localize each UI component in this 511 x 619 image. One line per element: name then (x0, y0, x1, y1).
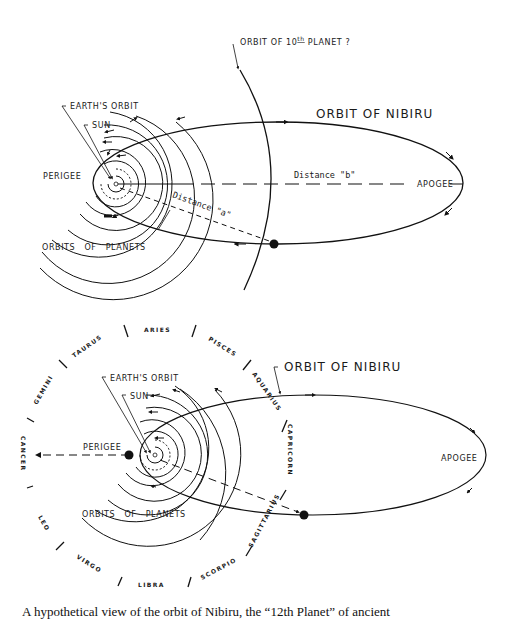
zodiac-libra: LIBRA (138, 581, 165, 588)
zodiac-gemini: GEMINI (32, 374, 55, 406)
zodiac-aquarius: AQUARIUS (251, 371, 283, 413)
bottom-orbits-of-planets-label: ORBITS OF PLANETS (82, 510, 186, 519)
zodiac-pisces: PISCES (207, 335, 238, 358)
top-diagram (40, 44, 463, 300)
top-orbits-of-planets-label: ORBITS OF PLANETS (42, 243, 146, 252)
orbit-diagrams: ORBIT OF 10th PLANET ? EARTH'S ORBIT SUN… (0, 0, 511, 619)
orbit-figure: ORBIT OF 10th PLANET ? EARTH'S ORBIT SUN… (0, 0, 511, 619)
bottom-nibiru-orbit (140, 395, 486, 515)
tenth-planet-orbit (240, 70, 271, 290)
top-planet-orbits (40, 112, 213, 300)
top-nibiru-dot (270, 240, 279, 249)
bottom-apogee-label: APOGEE (441, 454, 478, 463)
top-apogee-label: APOGEE (417, 180, 454, 189)
top-earths-orbit-label: EARTH'S ORBIT (70, 102, 139, 111)
bottom-nibiru-dot (300, 511, 309, 520)
bottom-nibiru-orbit-label: ORBIT OF NIBIRU (284, 360, 401, 374)
zodiac-aries: ARIES (144, 326, 171, 333)
distance-b-label: Distance "b" (294, 170, 355, 180)
perigee-dot (125, 451, 134, 460)
zodiac-leo: LEO (37, 514, 52, 532)
zodiac-capricorn: CAPRICORN (287, 424, 294, 476)
zodiac-scorpio: SCORPIO (199, 556, 238, 581)
bottom-diagram (27, 325, 486, 587)
top-perigee-label: PERIGEE (43, 172, 81, 181)
bottom-sun-icon (153, 453, 157, 457)
zodiac-virgo: VIRGO (75, 553, 103, 574)
top-nibiru-orbit (93, 122, 463, 244)
zodiac-taurus: TAURUS (71, 333, 104, 359)
zodiac-labels: ARIES PISCES AQUARIUS CAPRICORN SAGITTAR… (20, 326, 294, 588)
top-nibiru-orbit-label: ORBIT OF NIBIRU (316, 107, 433, 121)
bottom-planet-orbits (82, 386, 241, 546)
zodiac-sagittarius: SAGITTARIUS (247, 492, 281, 548)
tenth-planet-label: ORBIT OF 10th PLANET ? (240, 35, 350, 47)
bottom-perigee-label: PERIGEE (83, 443, 121, 452)
figure-caption: A hypothetical view of the orbit of Nibi… (22, 604, 502, 619)
distance-a-label: Distance "a" (171, 189, 232, 219)
bottom-earths-orbit-label: EARTH'S ORBIT (110, 374, 179, 383)
zodiac-cancer: CANCER (20, 436, 27, 472)
top-sun-label: SUN (92, 121, 111, 130)
top-sun-icon (114, 182, 118, 186)
bottom-sun-label: SUN (130, 392, 149, 401)
